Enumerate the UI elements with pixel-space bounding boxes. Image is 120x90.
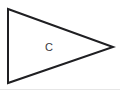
triangle-shape (8, 9, 113, 83)
bottom-edge-hairline (0, 89, 120, 90)
triangle-figure-svg: C (0, 0, 120, 90)
diagram-canvas: C (0, 0, 120, 90)
shape-letter-label: C (45, 41, 53, 53)
